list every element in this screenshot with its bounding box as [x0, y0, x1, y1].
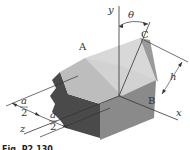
- label-x: x: [176, 107, 182, 118]
- label-theta: θ: [128, 9, 134, 20]
- arrowhead: [178, 62, 182, 67]
- arrowhead: [143, 22, 148, 26]
- arrowhead: [162, 89, 166, 94]
- label-B: B: [148, 95, 155, 106]
- label-z: z: [19, 123, 26, 134]
- label-y: y: [107, 4, 114, 15]
- arrowhead: [12, 103, 17, 107]
- label-2-1: 2: [21, 107, 27, 118]
- label-A: A: [78, 41, 87, 52]
- label-C: C: [141, 29, 149, 40]
- label-a-1: a: [21, 95, 27, 106]
- figure-caption: Fig. P2.130: [2, 145, 53, 150]
- label-a-2: a: [50, 109, 56, 120]
- label-2-2: 2: [50, 121, 56, 132]
- statics-diagram: y θ C A B h x z a 2 a 2 Fig. P2.130: [0, 0, 190, 150]
- label-h: h: [170, 71, 176, 82]
- arrowhead: [35, 112, 40, 116]
